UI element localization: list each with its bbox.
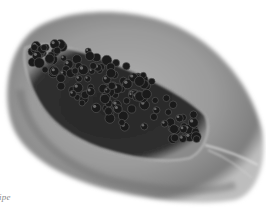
papaya-photo	[0, 0, 266, 210]
caption-text: ipe	[0, 192, 11, 202]
